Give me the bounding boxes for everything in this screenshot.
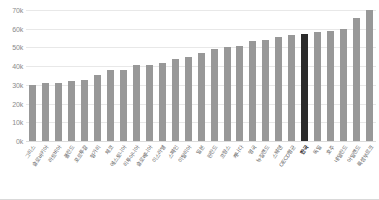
x-axis-label-slot: 영국 [246, 143, 259, 198]
x-axis-label-slot: 슬로바키아 [39, 143, 52, 198]
bar [198, 53, 205, 141]
bar-slot [208, 10, 221, 141]
bar-slot [78, 10, 91, 141]
bar-slot [65, 10, 78, 141]
x-axis-label-slot: 리투아니아 [130, 143, 143, 198]
bar-slot [52, 10, 65, 141]
bar [133, 65, 140, 141]
y-axis-tick-label: 70k [12, 7, 23, 14]
bar [172, 59, 179, 141]
x-axis-labels: 그리스슬로바키아라트비아폴란드포르투갈헝가리체코에스토니아리투아니아슬로베니아이… [26, 143, 376, 198]
bar [249, 41, 256, 141]
bar [185, 57, 192, 141]
x-axis-tick-label: 헝가리 [89, 144, 102, 159]
x-axis-label-slot: 포르투갈 [78, 143, 91, 198]
bar [42, 83, 49, 141]
bar-slot [272, 10, 285, 141]
x-axis-label-slot: 슬로베니아 [143, 143, 156, 198]
bar-slot [130, 10, 143, 141]
x-axis-label-slot: 프랑스 [221, 143, 234, 198]
bar [29, 85, 36, 141]
bar [366, 10, 373, 141]
x-axis-tick-label: 프랑스 [219, 144, 232, 159]
x-axis-tick-label: 핀란드 [206, 144, 219, 159]
x-axis-tick-label: 일본 [195, 144, 206, 155]
bar-slot [363, 10, 376, 141]
bar-slot [246, 10, 259, 141]
x-axis-label-slot: 룩셈부르크 [363, 143, 376, 198]
x-axis-label-slot: 그리스 [26, 143, 39, 198]
x-axis-label-slot: 한국 [298, 143, 311, 198]
bar [275, 37, 282, 141]
y-axis-tick-label: 30k [12, 81, 23, 88]
bar-slot [39, 10, 52, 141]
bar [107, 70, 114, 141]
bar-slot [350, 10, 363, 141]
bar-series [26, 10, 376, 141]
x-axis-label-slot: 에스토니아 [117, 143, 130, 198]
x-axis-label-slot: 독일 [311, 143, 324, 198]
bar-slot [169, 10, 182, 141]
bar [146, 65, 153, 141]
x-axis-tick-label: 독일 [312, 144, 323, 155]
bar [288, 35, 295, 141]
x-axis-label-slot: 네덜란드 [337, 143, 350, 198]
x-axis-tick-label: 한국 [299, 144, 310, 155]
bar-slot [26, 10, 39, 141]
x-axis-label-slot: 캐나다 [234, 143, 247, 198]
x-axis-label-slot: 스웨덴 [272, 143, 285, 198]
bar [327, 31, 334, 141]
bar [314, 32, 321, 141]
bar [211, 49, 218, 141]
gridline [26, 141, 376, 142]
x-axis-label-slot: 이탈리아 [182, 143, 195, 198]
bar [340, 29, 347, 141]
bar [94, 75, 101, 141]
bar [224, 47, 231, 142]
bar-highlighted [301, 34, 308, 141]
bar [353, 18, 360, 141]
x-axis-tick-label: 체코 [105, 144, 116, 155]
bar-slot [91, 10, 104, 141]
y-axis-tick-label: 40k [12, 63, 23, 70]
y-axis-tick-label: 0k [16, 138, 23, 145]
x-axis-tick-label: 영국 [247, 144, 258, 155]
bar [262, 40, 269, 141]
x-axis-label-slot: 뉴질랜드 [259, 143, 272, 198]
x-axis-label-slot: 라트비아 [52, 143, 65, 198]
x-axis-label-slot: 체코 [104, 143, 117, 198]
bar-slot [234, 10, 247, 141]
x-axis-label-slot: 폴란드 [65, 143, 78, 198]
plot-area [26, 10, 376, 141]
x-axis-label-slot: OECD평균 [285, 143, 298, 198]
bar [120, 70, 127, 141]
bar [236, 46, 243, 141]
x-axis-label-slot: 스페인 [169, 143, 182, 198]
bar-slot [156, 10, 169, 141]
bar-slot [143, 10, 156, 141]
x-axis-label-slot: 일본 [195, 143, 208, 198]
bar-slot [259, 10, 272, 141]
bar-slot [104, 10, 117, 141]
x-axis-label-slot: 이스라엘 [156, 143, 169, 198]
bar-slot [117, 10, 130, 141]
x-axis-label-slot: 아일랜드 [350, 143, 363, 198]
x-axis-tick-label: 호주 [325, 144, 336, 155]
bar [68, 81, 75, 141]
bar-slot [337, 10, 350, 141]
bar-slot [182, 10, 195, 141]
bar-chart: 70k60k50k40k30k20k10k0k 그리스슬로바키아라트비아폴란드포… [0, 0, 379, 200]
y-axis-tick-label: 50k [12, 44, 23, 51]
bar-slot [298, 10, 311, 141]
bar-slot [221, 10, 234, 141]
y-axis-tick-label: 60k [12, 25, 23, 32]
bar-slot [324, 10, 337, 141]
bar [55, 83, 62, 141]
bar [81, 80, 88, 141]
bar [159, 63, 166, 141]
x-axis-label-slot: 호주 [324, 143, 337, 198]
bar-slot [285, 10, 298, 141]
y-axis-labels: 70k60k50k40k30k20k10k0k [0, 0, 26, 141]
x-axis-tick-label: 캐나다 [232, 144, 245, 159]
y-axis-tick-label: 10k [12, 119, 23, 126]
